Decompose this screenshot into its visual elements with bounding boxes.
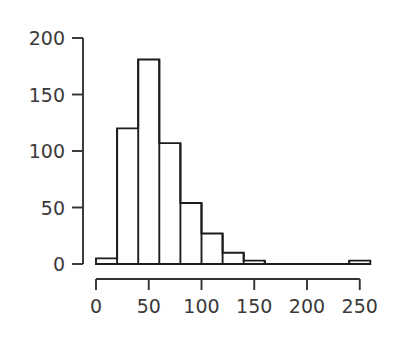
y-tick-label: 150 xyxy=(29,84,65,106)
y-tick-label: 50 xyxy=(41,197,65,219)
x-axis-ticks xyxy=(96,279,360,290)
y-axis xyxy=(72,38,83,264)
histogram-outline xyxy=(96,59,370,264)
x-axis xyxy=(96,279,360,290)
histogram-bars xyxy=(96,59,370,264)
x-tick-label: 200 xyxy=(289,295,325,317)
x-tick-label: 150 xyxy=(236,295,272,317)
y-tick-label: 0 xyxy=(53,253,65,275)
chart-canvas: 050100150200 050100150200250 xyxy=(0,0,399,344)
histogram-figure: 050100150200 050100150200250 xyxy=(0,0,399,344)
x-tick-label: 50 xyxy=(137,295,161,317)
x-tick-label: 250 xyxy=(342,295,378,317)
x-axis-tick-labels: 050100150200250 xyxy=(90,295,378,317)
y-axis-tick-labels: 050100150200 xyxy=(29,27,65,275)
x-tick-label: 0 xyxy=(90,295,102,317)
y-tick-label: 100 xyxy=(29,140,65,162)
y-axis-ticks xyxy=(72,38,83,264)
x-tick-label: 100 xyxy=(183,295,219,317)
y-tick-label: 200 xyxy=(29,27,65,49)
